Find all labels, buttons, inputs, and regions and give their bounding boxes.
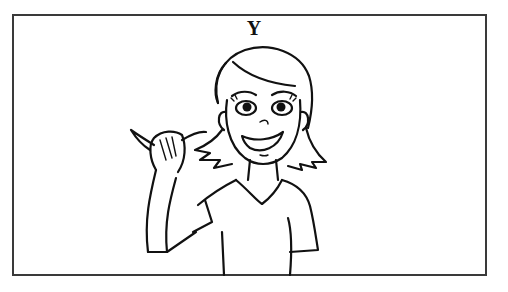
woman-signing-y-illustration [0, 0, 508, 292]
